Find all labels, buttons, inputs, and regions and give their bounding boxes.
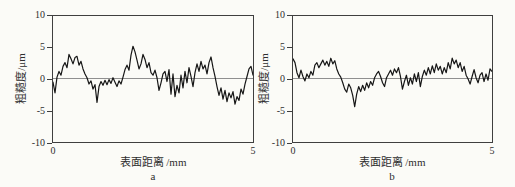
subplot-letter-b: b bbox=[382, 170, 402, 182]
y-tick-label: 0 bbox=[263, 74, 285, 84]
x-axis-label-a: 表面距离 /mm bbox=[83, 156, 223, 168]
x-tick-label: 5 bbox=[487, 146, 497, 156]
subplot-letter-a: a bbox=[143, 170, 163, 182]
plot-area-b bbox=[292, 15, 493, 143]
y-tick-label: -5 bbox=[23, 106, 45, 116]
roughness-trace-a bbox=[53, 16, 253, 142]
y-tick-label: -5 bbox=[263, 106, 285, 116]
x-tick-label: 5 bbox=[248, 146, 258, 156]
plot-area-a bbox=[52, 15, 254, 143]
x-tick-label: 0 bbox=[288, 146, 298, 156]
y-tick-label: -10 bbox=[23, 138, 45, 148]
roughness-profile-figure: 粗糙度/μm 10 5 0 -5 -10 0 5 表面距离 /mm a 粗糙度/… bbox=[0, 0, 515, 187]
x-axis-label-b: 表面距离 /mm bbox=[322, 156, 462, 168]
y-tick-label: 5 bbox=[23, 42, 45, 52]
x-tick-label: 0 bbox=[48, 146, 58, 156]
y-tick-label: 10 bbox=[263, 10, 285, 20]
y-tick-mark bbox=[287, 143, 292, 144]
roughness-trace-b bbox=[293, 16, 492, 142]
y-tick-mark bbox=[47, 143, 52, 144]
y-tick-label: 10 bbox=[23, 10, 45, 20]
y-tick-label: -10 bbox=[263, 138, 285, 148]
y-tick-label: 0 bbox=[23, 74, 45, 84]
y-tick-label: 5 bbox=[263, 42, 285, 52]
